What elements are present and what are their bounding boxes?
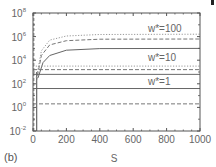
y-tick-label: 102 — [12, 78, 27, 90]
x-tick-label: 400 — [91, 134, 108, 145]
axes — [33, 0, 214, 131]
annotation-w1: w*=1 — [147, 76, 171, 87]
y-tick-label: 10-2 — [10, 125, 27, 137]
x-tick-label: 600 — [125, 134, 142, 145]
annotation-w100: w*=100 — [147, 23, 182, 34]
panel-label: (b) — [4, 151, 17, 163]
x-axis-label: S — [111, 153, 118, 164]
x-tick-label: 0 — [30, 134, 36, 145]
x-tick-label: 800 — [158, 134, 175, 145]
annotation-w10: w*=10 — [147, 52, 177, 63]
line-chart: 0200400600800100010810610410210010-2 w*=… — [0, 0, 216, 167]
corner-mark — [211, 0, 214, 5]
y-tick-label: 104 — [12, 54, 27, 66]
x-tick-label: 1000 — [189, 134, 212, 145]
x-tick-label: 200 — [58, 134, 75, 145]
y-tick-label: 100 — [12, 101, 27, 113]
y-tick-label: 106 — [12, 31, 27, 43]
y-tick-label: 108 — [12, 7, 27, 19]
